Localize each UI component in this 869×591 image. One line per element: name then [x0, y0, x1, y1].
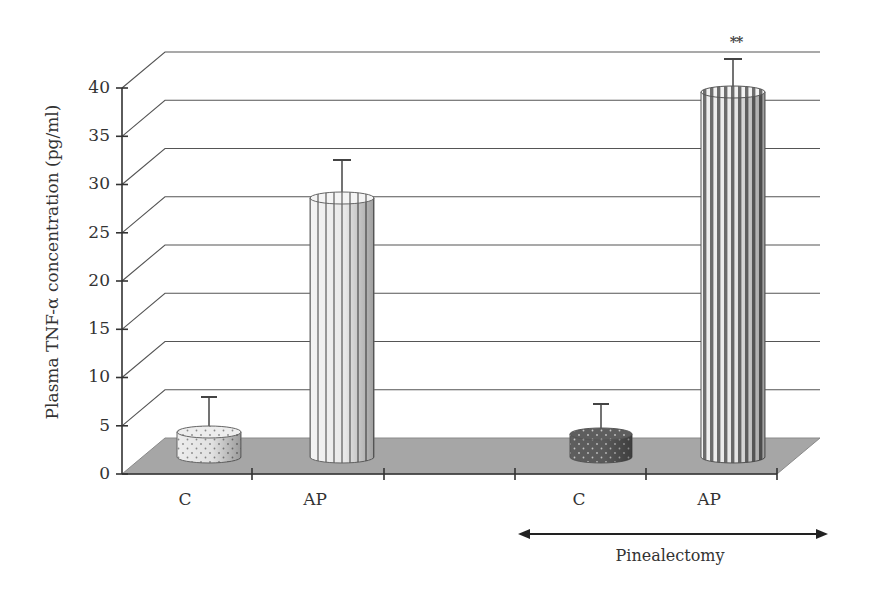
- category-label-ap: AP: [303, 489, 327, 509]
- y-tick-label: 35: [80, 125, 110, 145]
- bar-ap-pinealectomy: [701, 59, 765, 463]
- y-axis: [116, 88, 128, 474]
- category-label-ap-pinealectomy: AP: [697, 489, 721, 509]
- y-tick-label: 30: [80, 173, 110, 193]
- y-axis-title: Plasma TNF-α concentration (pg/ml): [42, 105, 62, 420]
- significance-marker: **: [730, 34, 743, 50]
- y-tick-label: 40: [80, 77, 110, 97]
- bar-c-pinealectomy: [570, 404, 632, 463]
- pinealectomy-arrow: [518, 529, 828, 539]
- chart-canvas: [0, 0, 869, 591]
- y-tick-label: 5: [80, 415, 110, 435]
- y-tick-label: 0: [80, 463, 110, 483]
- y-tick-label: 20: [80, 270, 110, 290]
- category-label-c: C: [178, 489, 191, 509]
- category-label-c-pinealectomy: C: [572, 489, 585, 509]
- y-tick-label: 10: [80, 366, 110, 386]
- bar-c-control: [177, 397, 241, 463]
- y-tick-label: 25: [80, 222, 110, 242]
- pinealectomy-label: Pinealectomy: [615, 546, 724, 565]
- y-tick-label: 15: [80, 318, 110, 338]
- bar-ap-control: [310, 160, 374, 463]
